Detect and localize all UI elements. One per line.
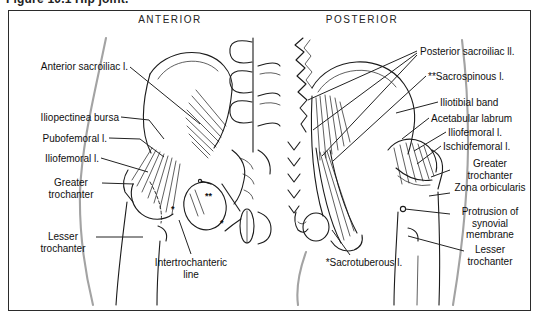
leader-iliotibial-band	[396, 102, 438, 113]
label-lesser-trochanter-post: Lesser trochanter	[452, 244, 528, 267]
leader-post-sacroiliac-1	[308, 51, 417, 100]
leader-sacrotuberous	[332, 230, 350, 255]
label-intertrochanteric-line: Intertrochanteric line	[148, 257, 234, 280]
leader-intertrochanteric-line	[179, 220, 191, 254]
leader-sacrospinous	[333, 76, 426, 161]
label-protrusion-synovial: Protrusion of synovial membrane	[450, 206, 530, 241]
label-sacrotuberous: *Sacrotuberous l.	[318, 257, 410, 269]
label-iliofemoral-post: Iliofemoral l.	[448, 127, 532, 139]
leader-greater-trochanter-ant	[102, 183, 134, 184]
label-pubofemoral: Pubofemoral l.	[17, 133, 107, 145]
label-posterior-sacroiliac: Posterior sacroiliac ll.	[420, 46, 530, 58]
label-greater-trochanter-post: Greater trochanter	[452, 158, 528, 181]
leader-iliofemoral-post	[414, 132, 446, 151]
leader-pubofemoral	[109, 138, 164, 157]
label-greater-trochanter-ant: Greater trochanter	[40, 177, 102, 200]
label-zona-orbicularis: Zona orbicularis	[452, 182, 528, 194]
label-ischiofemoral: Ischiofemoral l.	[443, 141, 531, 153]
leader-acetabular-labrum	[402, 118, 429, 139]
leader-iliofemoral-ant	[101, 158, 148, 172]
leader-greater-trochanter-post	[431, 170, 450, 177]
label-anterior-sacroiliac: Anterior sacroiliac l.	[18, 61, 128, 73]
figure-hip-joint: Figure 10.1 Hip joint. ANTERIOR POSTERIO…	[0, 0, 536, 316]
leader-anterior-sacroiliac	[130, 67, 200, 124]
label-iliofemoral-ant: Iliofemoral l.	[9, 153, 99, 165]
label-iliotibial-band: Iliotibial band	[440, 97, 530, 109]
label-acetabular-labrum: Acetabular labrum	[431, 113, 529, 125]
label-lesser-trochanter-ant: Lesser trochanter	[32, 231, 94, 254]
leader-iliopectinea-bursa	[121, 117, 164, 139]
label-sacrospinous: **Sacrospinous l.	[428, 71, 528, 83]
leader-ischiofemoral	[417, 146, 441, 164]
leader-protrusion-synovial	[405, 209, 450, 214]
leader-post-sacroiliac-2	[313, 53, 417, 130]
leader-post-sacroiliac-3	[322, 55, 417, 156]
leader-zona-orbicularis	[429, 193, 450, 196]
label-iliopectinea-bursa: Iliopectinea bursa	[19, 112, 119, 124]
